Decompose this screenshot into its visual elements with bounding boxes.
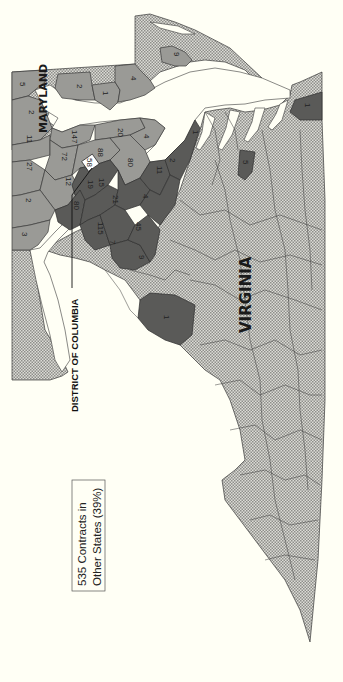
va-value: 15 xyxy=(97,178,106,187)
legend-line-2: Other States (39%) xyxy=(91,487,103,586)
dc-value: 58 xyxy=(85,158,94,167)
va-value: 45 xyxy=(134,222,143,231)
md-value: 2 xyxy=(24,198,33,203)
md-value: 5 xyxy=(18,82,27,87)
md-value: 27 xyxy=(25,162,34,171)
va-value: 4 xyxy=(141,194,150,199)
md-value: 4 xyxy=(129,76,138,81)
va-value: 11 xyxy=(155,166,164,175)
legend-line-1: 535 Contracts in xyxy=(76,502,88,586)
va-value: 7 xyxy=(108,240,117,245)
va-value: 1 xyxy=(191,130,200,135)
other-states-legend: 535 Contracts in Other States (39%) xyxy=(72,480,105,591)
md-value: 11 xyxy=(25,135,34,144)
md-value: 72 xyxy=(60,152,69,161)
va-value: 80 xyxy=(72,201,81,210)
va-value: 1 xyxy=(303,103,312,108)
md-value: 80 xyxy=(126,158,135,167)
maryland-label: MARYLAND xyxy=(37,64,50,133)
md-value: 2 xyxy=(75,84,84,89)
va-value: 5 xyxy=(241,160,250,165)
md-value: 3 xyxy=(20,232,29,237)
md-value: 88 xyxy=(96,148,105,157)
md-value: 1 xyxy=(101,91,110,96)
va-value: 21 xyxy=(111,195,120,204)
md-county xyxy=(55,72,95,100)
md-value: 147 xyxy=(70,130,79,144)
va-value: 115 xyxy=(96,222,105,235)
md-value: 12 xyxy=(64,177,73,186)
contracts-map: 5 2 1 4 9 2 11 27 147 20 4 72 88 80 12 2… xyxy=(0,0,343,682)
md-value: 4 xyxy=(142,134,151,139)
md-value: 9 xyxy=(172,52,181,57)
md-value: 2 xyxy=(27,110,36,115)
md-value: 20 xyxy=(116,128,125,137)
dc-label: DISTRICT OF COLUMBIA xyxy=(69,298,80,412)
va-value: 19 xyxy=(86,180,95,189)
va-value: 1 xyxy=(162,315,171,320)
virginia-label: VIRGINIA xyxy=(237,256,255,333)
va-value: 9 xyxy=(137,255,146,260)
va-value: 2 xyxy=(168,158,177,163)
